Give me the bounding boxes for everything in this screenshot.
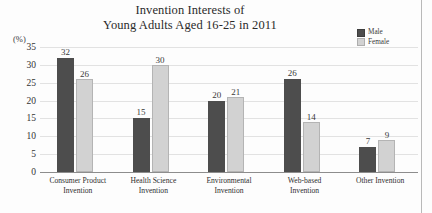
category-label-line: Invention bbox=[268, 186, 342, 196]
y-axis-tick-label: 15 bbox=[27, 113, 37, 123]
bar-value-label: 30 bbox=[156, 55, 165, 65]
category-label-line: Consumer Product bbox=[41, 176, 115, 186]
y-axis-tick-label: 20 bbox=[27, 96, 37, 106]
bar-value-label: 15 bbox=[137, 107, 146, 117]
y-axis-tick-label: 30 bbox=[27, 60, 37, 70]
y-axis-tick-label: 0 bbox=[31, 167, 36, 177]
bar-value-label: 14 bbox=[307, 112, 316, 122]
bar-male: 32 bbox=[57, 58, 74, 172]
bar-female: 30 bbox=[152, 65, 169, 172]
category-label-line: Invention bbox=[41, 186, 115, 196]
bar-value-label: 32 bbox=[61, 47, 70, 57]
page-border bbox=[421, 0, 422, 213]
category-label-line: Invention bbox=[192, 186, 266, 196]
plot-area: 35302520151050 322615302021261479 bbox=[40, 47, 418, 172]
y-axis-tick-label: 5 bbox=[31, 149, 36, 159]
y-axis-tick-label: 35 bbox=[27, 42, 37, 52]
bar-male: 20 bbox=[208, 101, 225, 172]
chart-legend: Male Female bbox=[357, 28, 389, 47]
bar-female: 26 bbox=[76, 79, 93, 172]
category-label-line: Other Invention bbox=[343, 176, 417, 186]
legend-item-male: Male bbox=[357, 28, 389, 38]
chart-title: Invention Interests of Young Adults Aged… bbox=[60, 3, 320, 33]
bar-value-label: 26 bbox=[288, 68, 297, 78]
bar-group: 1530 bbox=[116, 47, 192, 172]
x-axis-category-label: Consumer ProductInvention bbox=[40, 176, 116, 196]
chart-title-line-1: Invention Interests of bbox=[60, 3, 320, 18]
y-axis-tick-label: 10 bbox=[27, 131, 37, 141]
x-axis-baseline: 0 bbox=[40, 172, 418, 173]
bar-value-label: 9 bbox=[385, 130, 390, 140]
legend-label-female: Female bbox=[368, 38, 389, 48]
bar-group: 2021 bbox=[191, 47, 267, 172]
bar-group: 3226 bbox=[40, 47, 116, 172]
x-axis-category-label: Other Invention bbox=[342, 176, 418, 196]
chart-title-line-2: Young Adults Aged 16-25 in 2011 bbox=[60, 18, 320, 33]
bar-value-label: 26 bbox=[80, 69, 89, 79]
bar-value-label: 21 bbox=[231, 87, 240, 97]
chart-screenshot: Invention Interests of Young Adults Aged… bbox=[0, 0, 432, 213]
bar-male: 7 bbox=[359, 147, 376, 172]
bar-groups: 322615302021261479 bbox=[40, 47, 418, 172]
x-axis-category-label: Web-basedInvention bbox=[267, 176, 343, 196]
bar-female: 21 bbox=[227, 97, 244, 172]
legend-label-male: Male bbox=[368, 28, 383, 38]
bar-value-label: 20 bbox=[212, 90, 221, 100]
bar-value-label: 7 bbox=[366, 136, 371, 146]
y-axis-unit-label: (%) bbox=[13, 34, 26, 44]
x-axis-category-label: Health ScienceInvention bbox=[116, 176, 192, 196]
bar-female: 9 bbox=[378, 140, 395, 172]
x-axis-category-label: EnvironmentalInvention bbox=[191, 176, 267, 196]
bar-group: 2614 bbox=[267, 47, 343, 172]
bar-group: 79 bbox=[342, 47, 418, 172]
x-axis-category-labels: Consumer ProductInventionHealth ScienceI… bbox=[40, 176, 418, 196]
bar-male: 15 bbox=[133, 118, 150, 172]
legend-swatch-male-icon bbox=[357, 29, 365, 37]
category-label-line: Health Science bbox=[117, 176, 191, 186]
bar-male: 26 bbox=[284, 79, 301, 172]
y-axis-tick-label: 25 bbox=[27, 78, 37, 88]
category-label-line: Invention bbox=[117, 186, 191, 196]
bar-female: 14 bbox=[303, 122, 320, 172]
legend-swatch-female-icon bbox=[357, 38, 365, 46]
legend-item-female: Female bbox=[357, 38, 389, 48]
category-label-line: Web-based bbox=[268, 176, 342, 186]
category-label-line: Environmental bbox=[192, 176, 266, 186]
